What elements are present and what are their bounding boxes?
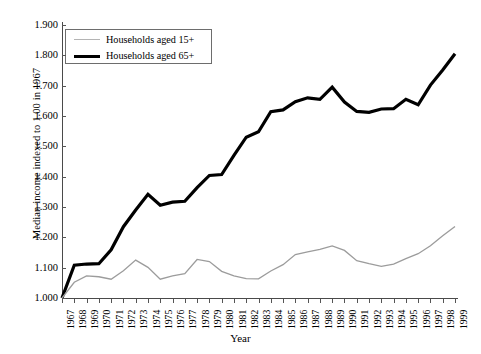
x-axis-tick-label: 1992 (373, 310, 382, 329)
x-axis-tick-label: 1997 (434, 310, 443, 329)
x-axis-tick-label: 1991 (360, 310, 369, 329)
x-axis-tick-label: 1972 (127, 310, 136, 329)
x-axis-tick-mark (87, 299, 88, 303)
x-axis-tick-label: 1984 (274, 310, 283, 329)
chart-legend: Households aged 15+ Households aged 65+ (65, 29, 212, 64)
x-axis-tick-mark (74, 299, 75, 303)
x-axis-tick-label: 1971 (115, 310, 124, 329)
y-axis-tick-mark (62, 207, 66, 208)
x-axis-tick-mark (259, 299, 260, 303)
x-axis-tick-mark (148, 299, 149, 303)
x-axis-tick-label: 1967 (66, 310, 75, 329)
x-axis-tick-mark (173, 299, 174, 303)
x-axis-tick-label: 1976 (176, 310, 185, 329)
series-line (62, 54, 455, 298)
x-axis-tick-mark (308, 299, 309, 303)
y-axis-tick-mark (62, 237, 66, 238)
x-axis-tick-label: 1982 (250, 310, 259, 329)
x-axis-tick-mark (344, 299, 345, 303)
x-axis-tick-mark (197, 299, 198, 303)
x-axis-tick-mark (222, 299, 223, 303)
y-axis-tick-mark (62, 86, 66, 87)
x-axis-tick-label: 1977 (188, 310, 197, 329)
x-axis-tick-label: 1970 (102, 310, 111, 329)
x-axis-tick-label: 1999 (459, 310, 468, 329)
legend-swatch-households-65 (74, 55, 100, 58)
x-axis-tick-label: 1998 (446, 310, 455, 329)
y-axis-tick-mark (62, 177, 66, 178)
x-axis-tick-label: 1986 (299, 310, 308, 329)
chart-figure: Median income indexed to 1.00 in 1967 1.… (0, 0, 481, 354)
x-axis-tick-mark (295, 299, 296, 303)
x-axis-tick-mark (443, 299, 444, 303)
y-axis-tick-mark (62, 116, 66, 117)
x-axis-tick-label: 1974 (152, 310, 161, 329)
x-axis-tick-label: 1978 (201, 310, 210, 329)
y-axis-tick-mark (62, 146, 66, 147)
x-axis-tick-label: 1968 (78, 310, 87, 329)
x-axis-tick-mark (283, 299, 284, 303)
x-axis-tick-label: 1993 (385, 310, 394, 329)
legend-label-households-65: Households aged 65+ (106, 50, 194, 61)
x-axis-tick-label: 1980 (225, 310, 234, 329)
x-axis-tick-mark (111, 299, 112, 303)
x-axis-tick-mark (430, 299, 431, 303)
x-axis-tick-mark (320, 299, 321, 303)
y-axis-tick-mark (62, 268, 66, 269)
x-axis-tick-mark (160, 299, 161, 303)
legend-item-households-15: Households aged 15+ (66, 32, 213, 48)
x-axis-tick-label: 1981 (238, 310, 247, 329)
x-axis-tick-label: 1973 (139, 310, 148, 329)
x-axis-tick-mark (406, 299, 407, 303)
x-axis-tick-label: 1988 (324, 310, 333, 329)
x-axis-tick-mark (369, 299, 370, 303)
x-axis-tick-mark (123, 299, 124, 303)
x-axis-tick-label: 1996 (422, 310, 431, 329)
x-axis-tick-mark (62, 299, 63, 303)
x-axis-tick-label: 1985 (287, 310, 296, 329)
legend-swatch-households-15 (74, 39, 100, 40)
x-axis-tick-mark (418, 299, 419, 303)
x-axis-tick-mark (246, 299, 247, 303)
legend-item-households-65: Households aged 65+ (66, 48, 213, 64)
x-axis-tick-label: 1994 (397, 310, 406, 329)
x-axis-tick-label: 1990 (348, 310, 357, 329)
x-axis-tick-label: 1979 (213, 310, 222, 329)
y-axis-tick-mark (62, 25, 66, 26)
x-axis-tick-mark (136, 299, 137, 303)
x-axis-tick-mark (99, 299, 100, 303)
x-axis-tick-mark (271, 299, 272, 303)
x-axis-tick-label: 1969 (90, 310, 99, 329)
x-axis-tick-label: 1975 (164, 310, 173, 329)
x-axis-tick-mark (455, 299, 456, 303)
x-axis-tick-mark (394, 299, 395, 303)
x-axis-title: Year (0, 332, 481, 344)
x-axis-tick-mark (234, 299, 235, 303)
y-axis-tick-mark (62, 55, 66, 56)
x-axis-tick-mark (332, 299, 333, 303)
x-axis-tick-label: 1983 (262, 310, 271, 329)
x-axis-tick-mark (381, 299, 382, 303)
x-axis-tick-label: 1987 (311, 310, 320, 329)
x-axis-tick-mark (357, 299, 358, 303)
x-axis-tick-mark (209, 299, 210, 303)
x-axis-tick-label: 1995 (409, 310, 418, 329)
x-axis-tick-label: 1989 (336, 310, 345, 329)
y-axis-tick-mark (62, 298, 66, 299)
series-line (62, 226, 455, 298)
legend-label-households-15: Households aged 15+ (106, 34, 194, 45)
x-axis-tick-mark (185, 299, 186, 303)
